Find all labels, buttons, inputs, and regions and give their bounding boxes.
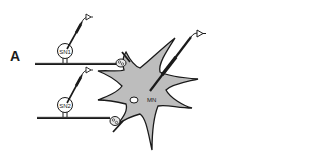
sn2-amplifier-icon	[86, 67, 91, 73]
motor-neuron-nucleus	[130, 97, 138, 103]
sensory-neuron-1: SN1	[35, 14, 130, 67]
motor-neuron-label: MN	[147, 97, 156, 103]
neuron-circuit-diagram: A MN SN1	[0, 0, 314, 159]
panel-label: A	[10, 48, 20, 64]
mn-amplifier-icon	[197, 30, 203, 37]
sn1-electrode	[67, 14, 93, 49]
motor-neuron-soma	[98, 38, 198, 150]
sn1-amplifier-icon	[86, 14, 91, 20]
sn1-label: SN1	[59, 49, 71, 55]
sn2-electrode	[67, 67, 93, 103]
sn2-label: SN2	[59, 103, 71, 109]
